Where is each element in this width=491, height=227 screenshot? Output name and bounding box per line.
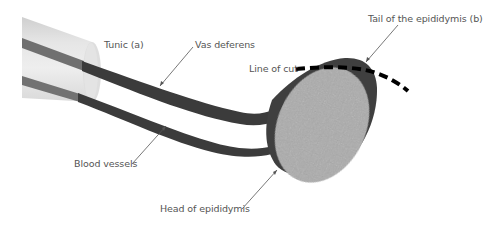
label-line-of-cut: Line of cut	[249, 64, 298, 74]
label-vas-deferens: Vas deferens	[195, 40, 255, 50]
leader-tail-of-epididymis	[366, 25, 398, 62]
label-head-of-epididymis: Head of epididymis	[160, 204, 250, 214]
label-tunic: Tunic (a)	[104, 40, 144, 50]
label-blood-vessels: Blood vessels	[74, 159, 137, 169]
epididymis-diagram	[0, 0, 491, 227]
leader-vas-deferens	[160, 47, 193, 86]
label-tail-of-epididymis: Tail of the epididymis (b)	[368, 14, 483, 24]
